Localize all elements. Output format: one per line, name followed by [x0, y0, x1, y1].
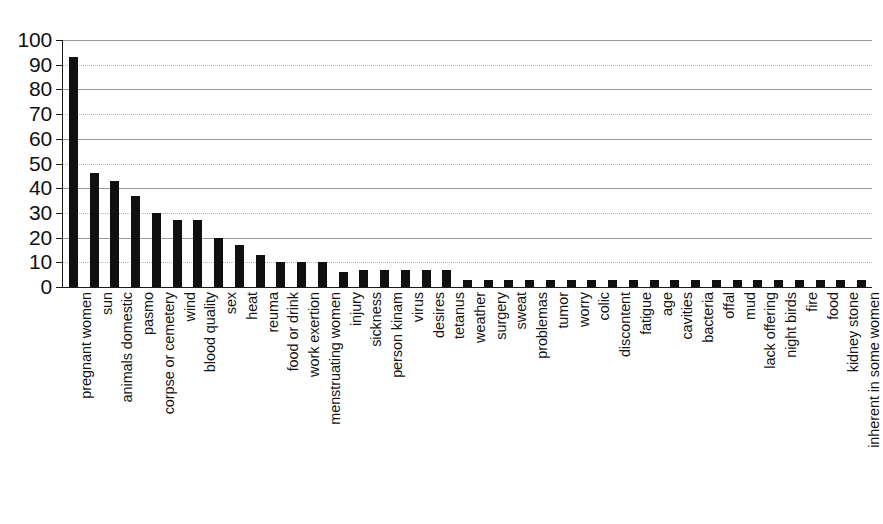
x-axis-tick-label: cavities: [680, 292, 695, 340]
x-axis-tick-label-wrap: tetanus: [452, 292, 467, 339]
x-axis-tick-label-wrap: discontent: [618, 292, 633, 357]
x-axis-tick-label-wrap: cavities: [680, 292, 695, 340]
x-axis-tick-label: food or drink: [286, 292, 301, 371]
bar: [463, 280, 472, 287]
x-axis-tick-label: heat: [245, 292, 260, 320]
bar: [297, 262, 306, 287]
bar: [504, 280, 513, 287]
bars-layer: [63, 40, 872, 287]
bar: [173, 220, 182, 287]
y-axis-tick: [56, 262, 63, 263]
y-axis-tick-label: 40: [0, 177, 52, 198]
x-axis-tick-label-wrap: animals domestic: [120, 292, 135, 402]
x-axis-tick-label: tetanus: [452, 292, 467, 339]
bar: [131, 196, 140, 287]
x-axis-tick-label: age: [660, 292, 675, 316]
x-axis-tick-label: mud: [743, 292, 758, 320]
x-axis-tick-label-wrap: colic: [597, 292, 612, 321]
x-axis-tick-label: work exertion: [307, 292, 322, 377]
x-axis-tick-label: desires: [432, 292, 447, 338]
x-axis-tick-label: sex: [224, 292, 239, 314]
x-axis-tick-label: problemas: [535, 292, 550, 359]
x-axis-tick-label-wrap: injury: [349, 292, 364, 326]
x-axis-tick-label-wrap: virus: [411, 292, 426, 322]
bar: [339, 272, 348, 287]
y-axis-tick-label: 30: [0, 202, 52, 223]
x-axis-tick-label-wrap: wind: [183, 292, 198, 321]
x-axis-tick-label-wrap: person kinam: [390, 292, 405, 378]
x-axis-tick-label: inherent in some women: [867, 292, 882, 448]
x-axis-tick-label: animals domestic: [120, 292, 135, 402]
x-axis-tick-label-wrap: corpse or cemetery: [162, 292, 177, 414]
bar: [276, 262, 285, 287]
y-axis-tick-label: 50: [0, 153, 52, 174]
y-axis-tick: [56, 40, 63, 41]
y-axis-tick: [56, 238, 63, 239]
x-axis-tick-label-wrap: pasmo: [141, 292, 156, 335]
x-axis-tick-label-wrap: fire: [805, 292, 820, 312]
x-axis-tick-label: virus: [411, 292, 426, 322]
x-axis-tick-label: fire: [805, 292, 820, 312]
y-axis-tick-label: 10: [0, 251, 52, 272]
x-axis-tick-label: reuma: [266, 292, 281, 333]
x-axis-tick-label: wind: [183, 292, 198, 321]
y-axis-labels: 1009080706050403020100: [0, 0, 52, 524]
bar: [795, 280, 804, 287]
x-axis-tick-label-wrap: bacteria: [701, 292, 716, 343]
bar: [484, 280, 493, 287]
x-axis-tick-label-wrap: food: [826, 292, 841, 320]
bar: [733, 280, 742, 287]
x-axis-tick-label-wrap: sweat: [514, 292, 529, 329]
bar: [318, 262, 327, 287]
y-axis-tick-label: 100: [0, 29, 52, 50]
x-axis-tick-label-wrap: surgery: [494, 292, 509, 340]
x-axis-tick-label: sweat: [514, 292, 529, 329]
bar: [235, 245, 244, 287]
bar: [256, 255, 265, 287]
x-axis-tick-label: weather: [473, 292, 488, 343]
x-axis-tick-label-wrap: worry: [577, 292, 592, 327]
x-axis-tick-label-wrap: food or drink: [286, 292, 301, 371]
x-axis-tick-label-wrap: sex: [224, 292, 239, 314]
y-axis-tick: [56, 213, 63, 214]
x-axis-tick-label: pregnant women: [79, 292, 94, 399]
y-axis-tick-label: 70: [0, 103, 52, 124]
bar: [836, 280, 845, 287]
x-axis-tick-label-wrap: age: [660, 292, 675, 316]
bar: [753, 280, 762, 287]
x-axis-tick-label: colic: [597, 292, 612, 321]
bar: [69, 57, 78, 287]
bar: [422, 270, 431, 287]
x-axis-tick-label: blood quality: [203, 292, 218, 372]
y-axis-tick: [56, 65, 63, 66]
x-axis-tick-label: fatigue: [639, 292, 654, 335]
bar: [359, 270, 368, 287]
y-axis-tick-label: 90: [0, 54, 52, 75]
x-axis-tick-label: corpse or cemetery: [162, 292, 177, 414]
bar: [193, 220, 202, 287]
x-axis-tick-label-wrap: tumor: [556, 292, 571, 329]
x-axis-tick-label-wrap: pregnant women: [79, 292, 94, 399]
x-axis-tick-label-wrap: mud: [743, 292, 758, 320]
bar: [546, 280, 555, 287]
bar-chart: 1009080706050403020100 pregnant womensun…: [0, 0, 883, 524]
x-axis-tick-label: sickness: [369, 292, 384, 347]
x-axis-labels: pregnant womensunanimals domesticpasmoco…: [63, 292, 872, 524]
y-axis-tick-label: 60: [0, 128, 52, 149]
x-axis-tick-label: injury: [349, 292, 364, 326]
bar: [816, 280, 825, 287]
bar: [587, 280, 596, 287]
bar: [567, 280, 576, 287]
x-axis-tick-label: night birds: [784, 292, 799, 358]
x-axis-tick-label: surgery: [494, 292, 509, 340]
bar: [691, 280, 700, 287]
bar: [629, 280, 638, 287]
x-axis-tick-label: menstruating women: [328, 292, 343, 425]
bar: [401, 270, 410, 287]
bar: [670, 280, 679, 287]
x-axis-tick-label-wrap: sun: [100, 292, 115, 315]
y-axis-tick: [56, 188, 63, 189]
x-axis-tick-label: pasmo: [141, 292, 156, 335]
bar: [442, 270, 451, 287]
x-axis-tick-label-wrap: night birds: [784, 292, 799, 358]
